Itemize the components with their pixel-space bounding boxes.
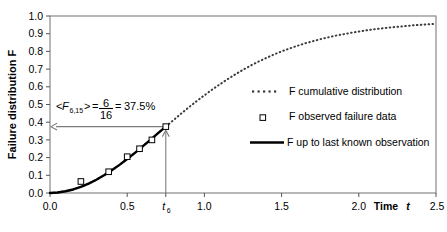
legend-marker-dotted-line — [263, 90, 265, 92]
x-tick-label-t6: t — [162, 200, 166, 212]
annotation-denominator: 16 — [100, 109, 112, 121]
failure-distribution-chart: 0.00.10.20.30.40.50.60.70.80.91.00.00.51… — [0, 0, 447, 232]
y-tick-label: 0.6 — [28, 80, 43, 92]
annotation-close-bracket: > — [84, 100, 90, 112]
annotation-equals-1: = — [92, 100, 98, 112]
series-known-observation — [50, 127, 166, 193]
y-tick-label: 0.3 — [28, 134, 43, 146]
annotation-numerator: 6 — [103, 97, 109, 109]
data-point-marker — [106, 169, 112, 175]
legend-marker-dotted-line — [269, 90, 271, 92]
legend-label-observed: F observed failure data — [289, 110, 397, 122]
y-tick-label: 1.0 — [28, 10, 43, 22]
y-tick-label: 0.9 — [28, 27, 43, 39]
legend-label-known-observation: F up to last known observation — [287, 136, 430, 148]
x-axis-title: Time — [374, 200, 398, 212]
data-point-marker — [149, 137, 155, 143]
legend-marker-open-square — [260, 115, 266, 121]
x-tick-label: 1.5 — [274, 200, 289, 212]
y-tick-label: 0.4 — [28, 116, 43, 128]
x-tick-label: 2.0 — [351, 200, 366, 212]
data-point-marker — [163, 124, 169, 130]
y-tick-label: 0.0 — [28, 187, 43, 199]
y-tick-label: 0.2 — [28, 151, 43, 163]
x-tick-label: 0.5 — [120, 200, 135, 212]
legend-label-cumulative: F cumulative distribution — [289, 85, 402, 97]
y-tick-label: 0.1 — [28, 169, 43, 181]
data-point-marker — [137, 146, 143, 152]
annotation-equals-2: = — [115, 100, 121, 112]
x-axis-title-symbol: t — [406, 200, 410, 212]
x-tick-label: 0.0 — [43, 200, 58, 212]
annotation-subscript: 6,15 — [70, 107, 84, 114]
figure-container: 0.00.10.20.30.40.50.60.70.80.91.00.00.51… — [0, 0, 447, 232]
legend-marker-dotted-line — [252, 90, 254, 92]
y-tick-label: 0.7 — [28, 63, 43, 75]
legend-marker-dotted-line — [258, 90, 260, 92]
y-tick-label: 0.5 — [28, 98, 43, 110]
data-point-marker — [124, 154, 130, 160]
data-point-marker — [78, 179, 84, 185]
legend-marker-dotted-line — [274, 90, 276, 92]
y-axis-title: Failure distribution F — [6, 50, 18, 160]
x-tick-label: 1.0 — [197, 200, 212, 212]
annotation-result: 37.5% — [124, 100, 155, 112]
x-tick-label: 2.5 — [430, 200, 445, 212]
x-tick-label-t6-subscript: 6 — [167, 207, 171, 214]
y-tick-label: 0.8 — [28, 45, 43, 57]
